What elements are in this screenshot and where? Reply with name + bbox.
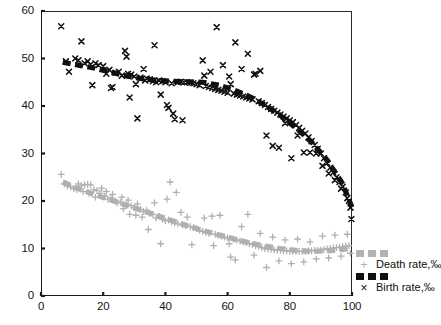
data-point <box>228 254 234 260</box>
data-point <box>239 66 244 71</box>
data-point <box>270 143 275 148</box>
data-point <box>320 233 326 239</box>
data-point <box>152 200 158 206</box>
data-point <box>307 239 313 245</box>
data-point <box>201 215 207 221</box>
data-point <box>208 69 213 74</box>
data-point <box>200 58 205 63</box>
data-point <box>264 265 270 271</box>
data-point <box>295 236 301 242</box>
data-point <box>184 214 190 220</box>
data-point <box>141 66 146 71</box>
legend-line-swatch-birth-rate <box>356 273 390 280</box>
data-point <box>313 256 319 262</box>
legend-marker-death-rate: + <box>358 259 370 271</box>
data-point <box>301 150 306 155</box>
data-point <box>338 253 344 259</box>
data-point <box>139 214 145 220</box>
data-point <box>79 39 84 44</box>
data-point <box>301 259 307 265</box>
data-point <box>251 252 257 258</box>
x-tick-label: 100 <box>332 300 372 312</box>
data-point <box>127 211 133 217</box>
y-tick-label: 40 <box>8 99 34 111</box>
data-point <box>226 241 232 247</box>
legend-item-death-rate: + Death rate,‰ <box>356 250 425 273</box>
x-tick-label: 60 <box>208 300 248 312</box>
data-point <box>189 242 195 248</box>
data-point <box>220 63 225 68</box>
data-point <box>270 234 276 240</box>
data-point <box>90 83 95 88</box>
data-point <box>232 257 238 263</box>
data-point <box>158 92 163 97</box>
chart-legend: + Death rate,‰ × Birth rate,‰ <box>356 250 425 296</box>
data-point <box>264 133 269 138</box>
data-point <box>122 48 127 53</box>
data-point <box>245 211 251 217</box>
data-point <box>180 118 185 123</box>
data-point <box>214 25 219 30</box>
x-tick-label: 20 <box>83 300 123 312</box>
legend-label-birth-rate: Birth rate,‰ <box>376 281 435 293</box>
y-tick-label: 60 <box>8 4 34 16</box>
data-point <box>145 227 151 233</box>
data-point <box>308 150 313 155</box>
data-point <box>124 54 129 59</box>
y-tick-label: 20 <box>8 194 34 206</box>
legend-item-birth-rate: × Birth rate,‰ <box>356 273 425 296</box>
data-point <box>332 232 338 238</box>
y-tick-label: 10 <box>8 242 34 254</box>
data-point <box>133 82 138 87</box>
data-point <box>135 116 140 121</box>
y-tick-label: 50 <box>8 52 34 64</box>
data-point <box>349 217 354 222</box>
data-point <box>173 190 179 196</box>
data-point <box>326 255 332 261</box>
data-point <box>171 111 176 116</box>
data-point <box>227 74 232 79</box>
data-point <box>344 231 350 237</box>
data-point <box>348 250 354 256</box>
data-point <box>257 230 263 236</box>
data-point <box>211 243 217 249</box>
y-tick-label: 30 <box>8 147 34 159</box>
data-point <box>58 172 64 178</box>
data-point <box>164 196 170 202</box>
data-point <box>282 237 288 243</box>
data-point <box>233 40 238 45</box>
data-point <box>202 73 207 78</box>
data-point <box>158 241 164 247</box>
data-point <box>127 95 132 100</box>
data-point <box>217 212 223 218</box>
data-point <box>289 156 294 161</box>
x-tick-label: 80 <box>270 300 310 312</box>
data-point <box>59 24 64 29</box>
legend-marker-birth-rate: × <box>358 282 370 294</box>
data-point <box>288 261 294 267</box>
series-death-rate <box>58 172 353 271</box>
data-point <box>178 210 184 216</box>
x-tick-label: 0 <box>21 300 61 312</box>
legend-line-swatch-death-rate <box>356 250 390 257</box>
data-point <box>88 182 94 188</box>
data-point <box>152 43 157 48</box>
data-point <box>133 212 139 218</box>
data-point <box>167 179 173 185</box>
data-point <box>169 81 174 86</box>
data-point <box>66 69 71 74</box>
data-point <box>172 117 177 122</box>
x-tick-label: 40 <box>145 300 185 312</box>
data-point <box>276 145 281 150</box>
data-point <box>276 258 282 264</box>
data-point <box>245 51 250 56</box>
legend-label-death-rate: Death rate,‰ <box>376 258 441 270</box>
data-point <box>209 213 215 219</box>
data-point <box>239 224 245 230</box>
